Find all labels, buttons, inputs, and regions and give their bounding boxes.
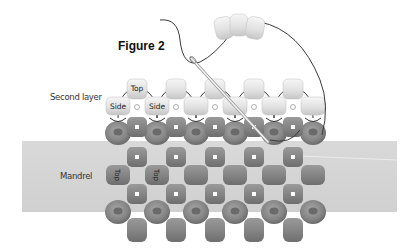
label-top-mandrel-1: Top bbox=[113, 168, 121, 181]
figure-title: Figure 2 bbox=[118, 39, 165, 53]
label-side-2: Side bbox=[149, 102, 166, 111]
label-top-mandrel-2: Top bbox=[152, 168, 160, 181]
label-side-1: Side bbox=[110, 102, 127, 111]
beadwork-illustration: Top Side Side Top Top bbox=[0, 0, 415, 248]
label-top-second-layer: Top bbox=[130, 84, 144, 93]
label-mandrel: Mandrel bbox=[60, 171, 92, 181]
figure-2-diagram: Top Side Side Top Top Figure 2 Second la… bbox=[0, 0, 415, 248]
label-second-layer: Second layer bbox=[50, 92, 102, 102]
